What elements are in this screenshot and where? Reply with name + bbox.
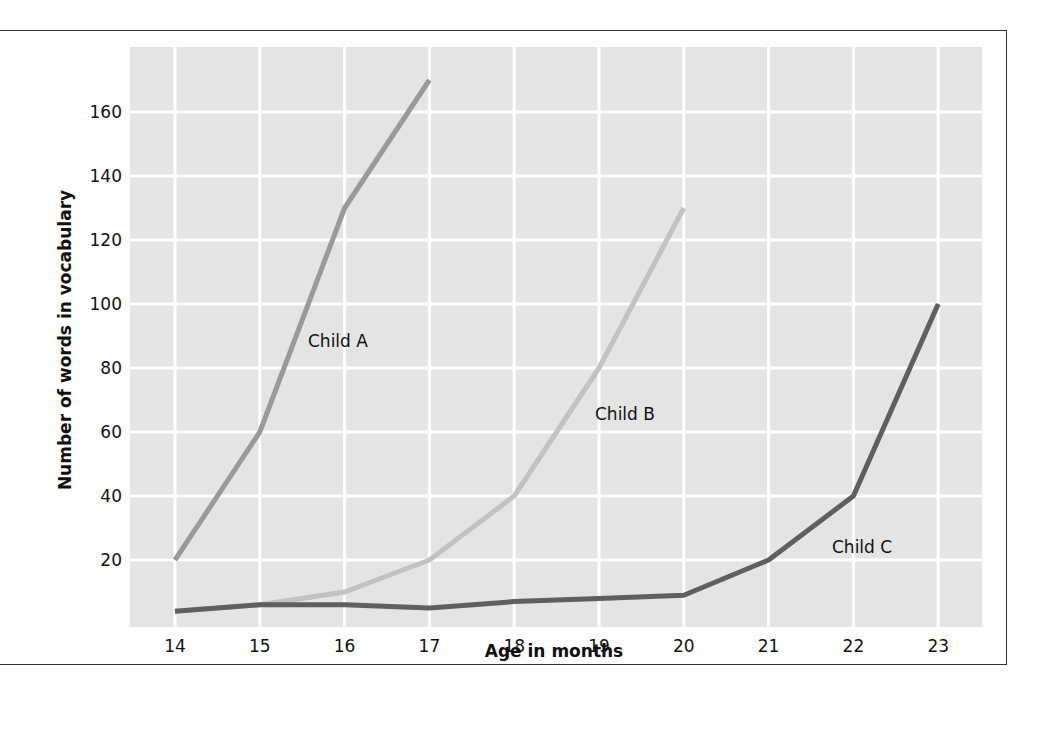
y-tick-label: 120: [90, 230, 122, 250]
y-axis-ticks: 20406080100120140160: [90, 102, 122, 570]
y-tick-label: 20: [100, 550, 122, 570]
x-tick-label: 22: [843, 636, 865, 656]
series-label-child-b: Child B: [595, 404, 655, 424]
x-axis-title: Age in months: [485, 641, 623, 661]
y-tick-label: 160: [90, 102, 122, 122]
x-tick-label: 20: [673, 636, 695, 656]
x-tick-label: 21: [758, 636, 780, 656]
y-tick-label: 140: [90, 166, 122, 186]
x-tick-label: 15: [249, 636, 271, 656]
series-label-child-c: Child C: [832, 537, 892, 557]
y-tick-label: 80: [100, 358, 122, 378]
series-label-child-a: Child A: [308, 331, 368, 351]
x-tick-label: 23: [927, 636, 949, 656]
x-tick-label: 17: [419, 636, 441, 656]
y-axis-title: Number of words in vocabulary: [55, 190, 75, 490]
y-tick-label: 100: [90, 294, 122, 314]
y-tick-label: 60: [100, 422, 122, 442]
line-chart: 20406080100120140160 1415161718192021222…: [0, 0, 1039, 739]
y-tick-label: 40: [100, 486, 122, 506]
x-tick-label: 16: [334, 636, 356, 656]
x-tick-label: 14: [164, 636, 186, 656]
